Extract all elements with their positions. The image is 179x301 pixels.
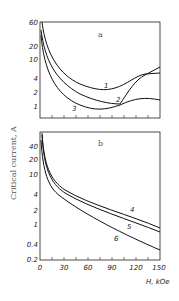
x-axis-label: H, kOe (146, 278, 170, 286)
svg-text:150: 150 (152, 264, 166, 272)
curve-label-6: 6 (114, 235, 119, 243)
curve-label-4: 4 (130, 206, 134, 214)
curve-label-3: 3 (72, 105, 76, 113)
curve-label-1: 1 (104, 82, 108, 90)
panel-label-b: b (98, 139, 103, 148)
svg-text:120: 120 (129, 264, 143, 272)
curve-label-2: 2 (116, 96, 121, 104)
svg-text:0.4: 0.4 (27, 241, 38, 249)
svg-text:10: 10 (29, 171, 38, 179)
panel-label-a: a (98, 30, 103, 39)
svg-text:20: 20 (29, 156, 38, 164)
panel-b: 40 20 10 4 2 1 0.4 0.2 0 30 60 90 120 15… (27, 132, 170, 286)
svg-text:1: 1 (34, 221, 38, 229)
svg-text:2: 2 (34, 207, 39, 215)
chart: 60 20 10 4 2 1 a 1 2 3 Critical current,… (0, 0, 179, 301)
svg-text:60: 60 (84, 264, 93, 272)
panel-a: 60 20 10 4 2 1 a 1 2 3 (29, 19, 160, 118)
svg-text:2: 2 (34, 89, 39, 97)
svg-text:40: 40 (29, 143, 38, 151)
curve-label-5: 5 (127, 223, 132, 231)
svg-text:60: 60 (29, 19, 38, 27)
svg-text:10: 10 (29, 56, 38, 64)
svg-text:20: 20 (29, 43, 38, 51)
y-axis-label: Critical current, A (9, 126, 18, 200)
svg-text:4: 4 (34, 191, 38, 199)
svg-text:1: 1 (34, 103, 38, 111)
svg-text:0: 0 (38, 264, 43, 272)
svg-text:0.2: 0.2 (27, 256, 39, 264)
svg-text:30: 30 (60, 264, 69, 272)
svg-text:90: 90 (108, 264, 117, 272)
svg-text:4: 4 (34, 75, 38, 83)
